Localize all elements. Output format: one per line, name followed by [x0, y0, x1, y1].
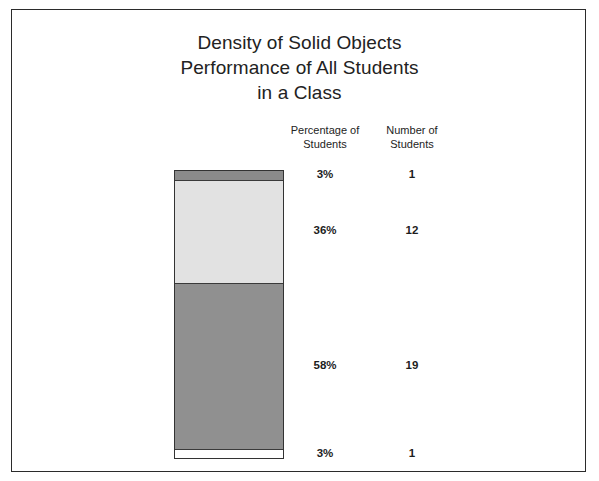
value-count-2: 12 — [372, 224, 452, 237]
column-header-percentage-line-1: Percentage of — [282, 123, 368, 137]
column-header-percentage: Percentage of Students — [282, 123, 368, 151]
chart-page: Density of Solid Objects Performance of … — [0, 0, 599, 481]
value-count-1: 1 — [372, 168, 452, 181]
column-header-number-line-2: Students — [372, 137, 452, 151]
bar-segment-4 — [175, 449, 283, 458]
title-line-3: in a Class — [0, 80, 599, 105]
value-count-4: 1 — [372, 447, 452, 460]
title-line-1: Density of Solid Objects — [0, 30, 599, 55]
value-percentage-2: 36% — [282, 224, 368, 237]
column-header-percentage-line-2: Students — [282, 137, 368, 151]
bar-segment-3 — [175, 283, 283, 449]
value-percentage-4: 3% — [282, 447, 368, 460]
bar-segment-2 — [175, 180, 283, 283]
column-header-number: Number of Students — [372, 123, 452, 151]
column-header-number-line-1: Number of — [372, 123, 452, 137]
stacked-bar — [174, 170, 284, 459]
value-percentage-1: 3% — [282, 168, 368, 181]
value-percentage-3: 58% — [282, 359, 368, 372]
value-count-3: 19 — [372, 359, 452, 372]
page-title: Density of Solid Objects Performance of … — [0, 30, 599, 105]
bar-segment-1 — [175, 171, 283, 180]
title-line-2: Performance of All Students — [0, 55, 599, 80]
